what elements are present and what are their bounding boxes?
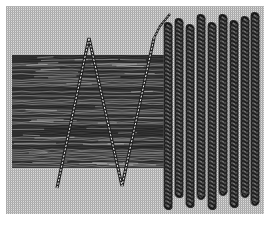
illustration-canvas — [0, 0, 270, 226]
chain-column — [164, 22, 173, 210]
chain-column — [175, 18, 184, 198]
chain-column — [241, 16, 250, 198]
chain-column — [197, 14, 206, 200]
chain-column — [186, 24, 195, 208]
stitch-illustration: Embroidery stitch illustration: laid thr… — [0, 0, 270, 226]
chain-column — [208, 22, 217, 210]
laid-thread-band — [12, 55, 174, 168]
chain-column — [251, 12, 260, 206]
chain-column — [219, 14, 228, 196]
chain-stitch-columns — [164, 12, 260, 210]
chain-column — [230, 20, 239, 208]
